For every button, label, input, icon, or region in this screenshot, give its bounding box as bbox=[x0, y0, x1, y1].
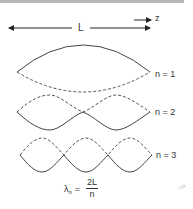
formula-fraction: 2L n bbox=[86, 178, 98, 199]
length-label: L bbox=[78, 23, 84, 33]
formula-subscript: n bbox=[69, 189, 72, 195]
mode-n3-label: n = 3 bbox=[156, 151, 176, 160]
mode-n1-label: n = 1 bbox=[155, 70, 175, 79]
formula-denominator: n bbox=[90, 189, 95, 199]
mode-n2-label: n = 2 bbox=[155, 108, 175, 117]
mode-n2-wave bbox=[17, 95, 150, 130]
z-axis-label: z bbox=[155, 14, 160, 23]
wavelength-formula: λn = 2L n bbox=[64, 178, 98, 199]
formula-equals: = bbox=[75, 184, 80, 194]
formula-numerator: 2L bbox=[86, 178, 98, 189]
mode-n3-wave bbox=[20, 138, 152, 172]
mode-n1-wave bbox=[17, 45, 150, 92]
